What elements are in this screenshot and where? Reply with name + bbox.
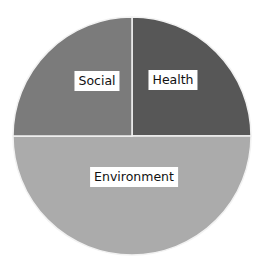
slice-label-social: Social <box>74 71 119 91</box>
pie-slice-environment <box>13 136 251 255</box>
pie-slices <box>13 17 251 255</box>
slice-label-health: Health <box>148 70 197 90</box>
slice-label-environment: Environment <box>90 167 178 187</box>
pie-chart <box>0 0 261 274</box>
